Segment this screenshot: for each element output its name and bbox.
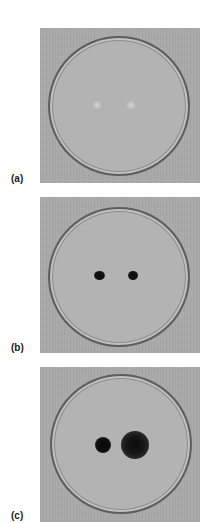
faint-spot-left [93, 101, 101, 109]
panel-c-label: (c) [11, 510, 23, 521]
petri-dish [48, 36, 190, 176]
panel-a-image [40, 28, 200, 183]
dark-colony-small [95, 437, 111, 453]
faint-spot-right [127, 101, 135, 109]
panel-a-label: (a) [11, 173, 23, 184]
panel-c-image [40, 367, 200, 522]
panel-b-label: (b) [11, 342, 24, 353]
dark-colony-large [121, 431, 149, 459]
dark-colony-right [128, 271, 138, 280]
panel-b-image [40, 197, 200, 353]
petri-dish [48, 207, 190, 347]
dark-colony-left [94, 271, 105, 280]
